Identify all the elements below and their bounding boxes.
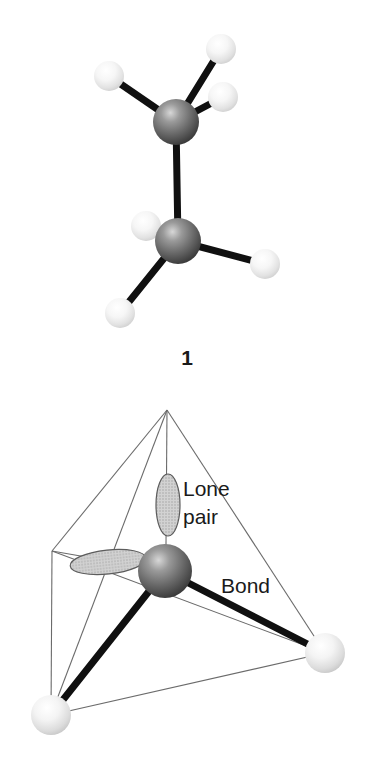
central-atom — [138, 544, 192, 598]
figure-root: 1 — [0, 0, 374, 768]
chemistry-figure: 1 — [0, 0, 374, 768]
lone-pair-label-line1: Lone — [183, 477, 230, 500]
hydrogen-lower-right — [250, 249, 280, 279]
ligand-right — [305, 633, 345, 673]
hydrogen-lower-bottomleft — [105, 298, 135, 328]
hydrogen-upper-left — [94, 61, 124, 91]
hydrogen-upper-right — [208, 82, 238, 112]
figure-caption-number: 1 — [181, 346, 193, 369]
bond-label: Bond — [221, 574, 270, 597]
hydrogen-upper-topright — [206, 34, 236, 64]
carbon-lower — [155, 218, 201, 264]
lone-pair-lobe-vertical — [156, 474, 180, 536]
lone-pair-label-line2: pair — [183, 505, 218, 528]
carbon-upper — [153, 99, 199, 145]
ligand-bottom-left — [31, 695, 71, 735]
